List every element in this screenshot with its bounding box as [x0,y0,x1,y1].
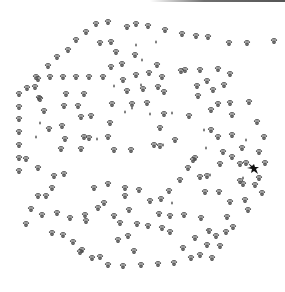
paw-print-icon [166,188,173,195]
paw-print-icon [227,71,234,78]
black-animal-silhouette-icon [246,161,260,175]
paw-print-icon [16,142,23,149]
paw-print-icon [156,211,163,218]
paw-print-icon [60,232,67,239]
paw-print-icon [167,213,174,220]
paw-print-icon [157,125,164,132]
paw-print-icon [146,70,153,77]
paw-print-icon [204,78,211,85]
paw-print-icon [54,210,61,217]
paw-print-icon [122,193,129,200]
paw-print-icon [159,225,166,232]
paw-print-icon [83,29,90,36]
paw-print-icon [256,175,263,182]
paw-print-icon [215,66,222,73]
paw-print-icon [159,74,166,81]
paw-print-icon [188,255,195,262]
paw-print-icon [51,173,58,180]
paw-print-icon [91,185,98,192]
paw-print-icon [132,52,139,59]
paw-print-icon [131,248,138,255]
paw-print-icon [54,54,61,61]
paw-print-icon [46,126,53,133]
paw-print-icon [136,187,143,194]
paw-print-icon [202,189,209,196]
paw-print-icon [172,137,179,144]
paw-print-icon [180,245,187,252]
paw-print-icon [73,74,80,81]
paw-print-icon [197,174,204,181]
paw-print-icon [101,200,108,207]
paw-print-icon [109,101,116,108]
paw-print-icon [197,67,204,74]
paw-print-icon [78,146,85,153]
paw-print-icon [190,157,197,164]
paw-print-icon [186,113,193,120]
paw-print-icon [134,221,141,228]
paw-print-icon [197,252,204,259]
paw-print-icon [167,229,174,236]
paw-print-icon [193,33,200,40]
paw-print-icon [171,260,178,267]
paw-print-icon [60,74,67,81]
speck-mark [149,113,151,116]
paw-print-icon [230,224,237,231]
paw-print-icon [61,103,68,110]
paw-print-icon [93,21,100,28]
paw-print-icon [67,215,74,222]
paw-print-icon [100,74,107,81]
paw-print-icon [83,218,90,225]
paw-print-icon [124,88,131,95]
paw-print-icon [179,31,186,38]
paw-print-icon [126,207,133,214]
paw-print-icon [23,221,30,228]
paw-print-icon [111,213,118,220]
paw-print-icon [155,261,162,268]
paw-print-icon [162,27,169,34]
speck-mark [155,41,157,44]
paw-print-icon [24,85,31,92]
paw-print-icon [88,113,95,120]
paw-print-icon [47,74,54,81]
paw-print-icon [226,40,233,47]
paw-print-icon [16,155,23,162]
paw-print-icon [37,96,44,103]
paw-print-icon [16,168,23,175]
paw-print-icon [208,127,215,134]
paw-print-icon [182,67,189,74]
paw-print-icon [213,233,220,240]
paw-print-icon [154,62,161,69]
paw-print-icon [45,63,52,70]
paw-print-icon [119,61,126,68]
paw-print-icon [210,87,217,94]
paw-print-icon [97,40,104,47]
paw-print-icon [140,86,147,93]
paw-print-icon [124,24,131,31]
speck-mark [113,85,115,88]
speck-mark [131,107,133,110]
paw-print-icon [70,239,77,246]
speck-mark [96,138,98,141]
paw-print-icon [161,89,168,96]
paw-print-icon [108,39,115,46]
paw-print-icon [105,134,112,141]
paw-print-icon [221,82,228,89]
paw-print-icon [75,103,82,110]
paw-print-icon [227,100,234,107]
speck-mark [242,177,244,180]
speck-mark [140,84,142,87]
paw-print-icon [86,135,93,142]
paw-print-icon [242,197,249,204]
paw-print-icon [133,72,140,79]
paw-print-icon [16,104,23,111]
paw-print-icon [195,93,202,100]
paw-print-icon [229,154,236,161]
paw-print-icon [208,107,215,114]
paw-print-icon [59,123,66,130]
paw-print-icon [49,185,56,192]
paw-print-icon [271,38,278,45]
paw-print-icon [177,177,184,184]
paw-print-icon [254,119,261,126]
paw-print-icon [224,214,231,221]
paw-print-icon [204,242,211,249]
